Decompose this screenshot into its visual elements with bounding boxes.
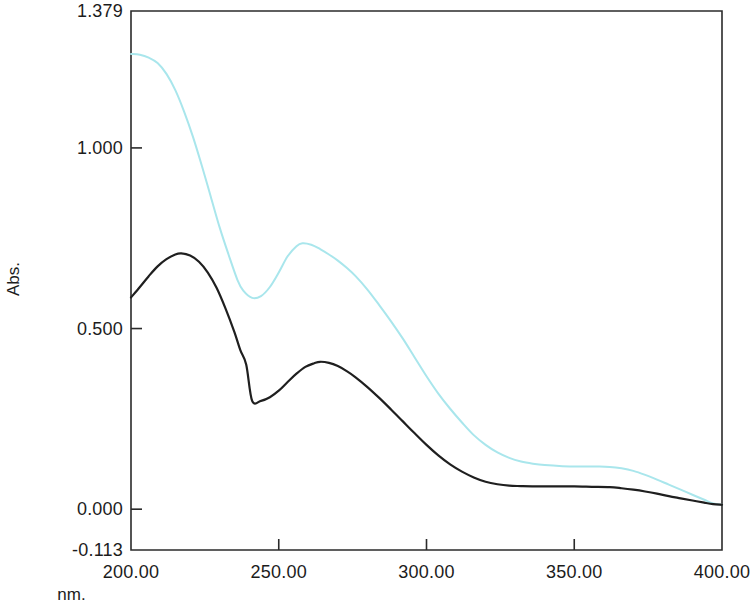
x-tick-label: 350.00: [546, 562, 602, 583]
y-tick-label: 1.379: [77, 1, 123, 22]
y-tick-label: 0.000: [77, 499, 123, 520]
y-tick-label: -0.113: [72, 540, 123, 561]
y-axis-ticks: [131, 148, 142, 509]
y-tick-label: 0.500: [77, 318, 123, 339]
x-axis-ticks: [279, 539, 575, 550]
spectrum-black-line: [131, 253, 722, 504]
x-axis-title: nm.: [57, 585, 85, 605]
data-series-group: [131, 54, 722, 505]
spectrum-cyan-line: [131, 54, 722, 505]
plot-frame: [131, 11, 722, 550]
x-tick-label: 400.00: [694, 562, 750, 583]
x-tick-label: 200.00: [103, 562, 159, 583]
x-tick-label: 250.00: [251, 562, 307, 583]
y-tick-label: 1.000: [77, 137, 123, 158]
x-tick-label: 300.00: [398, 562, 454, 583]
y-axis-title: Abs.: [4, 262, 24, 296]
